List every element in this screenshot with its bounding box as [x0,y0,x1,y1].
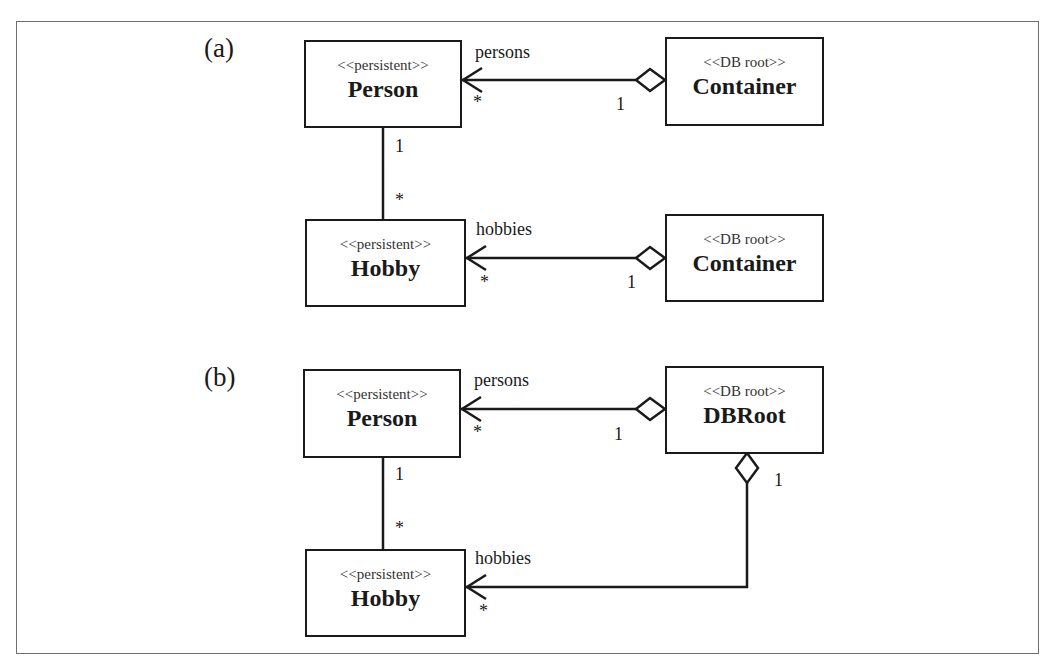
stereotype: <<DB root>> [667,230,822,248]
class-hobby-b: <<persistent>> Hobby [305,549,466,637]
association-lines [0,0,1057,671]
stereotype: <<DB root>> [667,382,822,400]
mult-hobby-side-a: * [395,190,404,211]
mult-hobbies-target-b: * [479,601,488,622]
class-name: Container [667,248,822,278]
class-name: Container [667,71,822,101]
mult-persons-target-a: * [473,92,482,113]
class-name: Person [305,403,459,433]
stereotype: <<DB root>> [667,53,822,71]
mult-hobbies-target-a: * [480,272,489,293]
class-container-a2: <<DB root>> Container [665,214,824,302]
stereotype: <<persistent>> [307,235,464,253]
mult-person-side-b: 1 [395,464,404,485]
class-person-a: <<persistent>> Person [304,40,462,128]
role-hobbies-b: hobbies [475,548,531,569]
stereotype: <<persistent>> [307,565,464,583]
mult-persons-source-b: 1 [614,424,623,445]
stereotype: <<persistent>> [306,56,460,74]
class-name: Hobby [307,253,464,283]
class-name: Hobby [307,583,464,613]
mult-hobbies-source-b: 1 [774,470,783,491]
role-hobbies-a: hobbies [476,219,532,240]
role-persons-a: persons [475,42,530,63]
class-container-a1: <<DB root>> Container [665,37,824,126]
mult-persons-source-a: 1 [616,94,625,115]
mult-hobbies-source-a: 1 [627,272,636,293]
class-dbroot-b: <<DB root>> DBRoot [665,366,824,454]
class-hobby-a: <<persistent>> Hobby [305,219,466,307]
class-name: DBRoot [667,400,822,430]
panel-label-a: (a) [204,33,234,64]
mult-person-side-a: 1 [395,136,404,157]
stereotype: <<persistent>> [305,385,459,403]
mult-persons-target-b: * [473,422,482,443]
role-persons-b: persons [474,370,529,391]
panel-label-b: (b) [204,362,235,393]
class-name: Person [306,74,460,104]
mult-hobby-side-b: * [395,518,404,539]
class-person-b: <<persistent>> Person [303,369,461,458]
